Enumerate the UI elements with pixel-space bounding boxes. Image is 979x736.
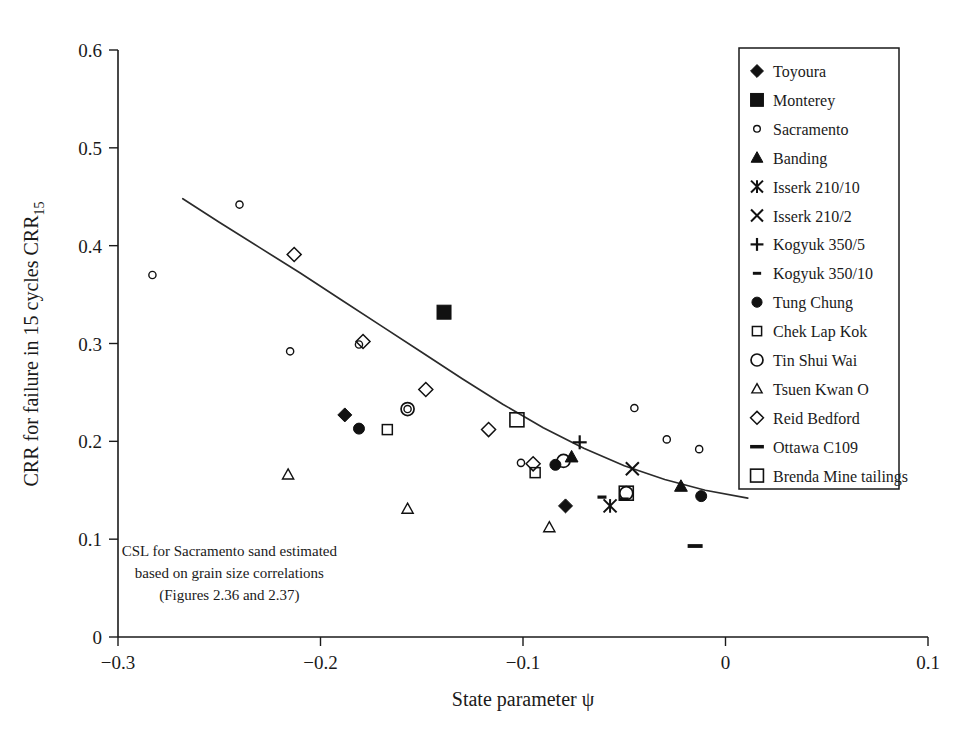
y-tick-label: 0.6 <box>78 40 102 61</box>
legend-item-reid-bedford[interactable]: Reid Bedford <box>742 405 896 431</box>
annotation-line: (Figures 2.36 and 2.37) <box>159 587 299 604</box>
annotation-line: based on grain size correlations <box>135 565 324 581</box>
marker-filled-circle <box>353 423 364 434</box>
figure-root: −0.3−0.2−0.100.1 00.10.20.30.40.50.6 Sta… <box>0 0 979 736</box>
series-monterey <box>437 305 451 319</box>
legend-item-isserk-210-10[interactable]: Isserk 210/10 <box>742 174 896 200</box>
marker-filled-square <box>437 305 451 319</box>
legend-item-label: Tin Shui Wai <box>773 352 858 369</box>
y-tick-label: 0.5 <box>78 138 102 159</box>
x-tick-label: −0.3 <box>101 652 135 673</box>
legend-item-label: Brenda Mine tailings <box>773 468 908 486</box>
x-tick-label: 0.1 <box>916 652 940 673</box>
legend-item-kogyuk-350-5[interactable]: Kogyuk 350/5 <box>742 231 896 257</box>
legend: ToyouraMontereySacramentoBandingIsserk 2… <box>739 48 908 489</box>
legend-item-tsuen-kwan-o[interactable]: Tsuen Kwan O <box>742 376 896 402</box>
legend-item-label: Chek Lap Kok <box>773 323 867 341</box>
legend-item-toyoura[interactable]: Toyoura <box>742 58 896 84</box>
marker-filled-circle <box>752 297 762 307</box>
marker-filled-square <box>751 93 764 106</box>
y-tick-label: 0 <box>93 627 103 648</box>
legend-item-tung-chung[interactable]: Tung Chung <box>742 289 896 315</box>
legend-item-label: Tsuen Kwan O <box>773 381 869 398</box>
series-ottawa-c109 <box>688 544 703 548</box>
y-tick-label: 0.2 <box>78 431 102 452</box>
x-tick-label: −0.2 <box>303 652 337 673</box>
legend-item-label: Banding <box>773 150 827 168</box>
y-axis-title-subscript: 15 <box>32 201 47 215</box>
legend-item-label: Isserk 210/2 <box>773 208 852 225</box>
marker-filled-circle <box>696 491 707 502</box>
legend-item-banding[interactable]: Banding <box>742 145 896 171</box>
y-tick-label: 0.1 <box>78 529 102 550</box>
legend-item-brenda-mine-tailings[interactable]: Brenda Mine tailings <box>742 463 908 489</box>
x-axis-title: State parameter ψ <box>452 688 595 711</box>
legend-item-kogyuk-350-10[interactable]: Kogyuk 350/10 <box>742 260 896 286</box>
marker-long-dash <box>750 445 764 448</box>
marker-small-dash <box>597 495 606 498</box>
legend-item-label: Sacramento <box>773 121 849 138</box>
legend-item-tin-shui-wai[interactable]: Tin Shui Wai <box>742 347 896 373</box>
y-tick-label: 0.3 <box>78 334 102 355</box>
x-tick-label: 0 <box>721 652 731 673</box>
legend-item-chek-lap-kok[interactable]: Chek Lap Kok <box>742 318 896 344</box>
legend-item-monterey[interactable]: Monterey <box>742 87 896 113</box>
y-axis-title-main: CRR for failure in 15 cycles CRR <box>20 215 43 487</box>
y-tick-label: 0.4 <box>78 236 102 257</box>
legend-item-label: Isserk 210/10 <box>773 179 860 196</box>
legend-item-label: Ottawa C109 <box>773 439 858 456</box>
legend-item-label: Tung Chung <box>773 294 853 312</box>
legend-item-label: Monterey <box>773 92 835 110</box>
annotation-line: CSL for Sacramento sand estimated <box>122 543 338 559</box>
legend-item-label: Toyoura <box>773 63 826 81</box>
legend-items: ToyouraMontereySacramentoBandingIsserk 2… <box>742 58 908 489</box>
legend-item-sacramento[interactable]: Sacramento <box>742 116 896 142</box>
scatter-chart: −0.3−0.2−0.100.1 00.10.20.30.40.50.6 Sta… <box>0 0 979 736</box>
legend-item-label: Kogyuk 350/10 <box>773 265 873 283</box>
legend-item-label: Reid Bedford <box>773 410 860 427</box>
legend-item-isserk-210-2[interactable]: Isserk 210/2 <box>742 203 896 229</box>
marker-small-dash <box>753 272 761 275</box>
x-tick-label: −0.1 <box>506 652 540 673</box>
legend-item-ottawa-c109[interactable]: Ottawa C109 <box>742 434 896 460</box>
marker-long-dash <box>688 544 703 548</box>
legend-item-label: Kogyuk 350/5 <box>773 236 865 254</box>
